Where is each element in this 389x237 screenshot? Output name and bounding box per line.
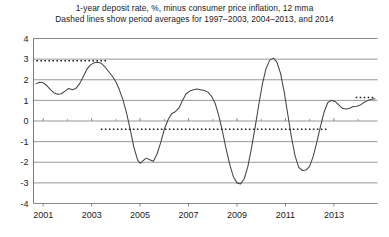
x-tick-label-2001: 2001: [33, 210, 53, 220]
x-tick-label-2007: 2007: [179, 210, 199, 220]
y-tick-label--1: -1: [20, 137, 28, 147]
y-tick-label--4: -4: [20, 199, 28, 209]
x-tick-label-2013: 2013: [324, 210, 344, 220]
y-tick-label-0: 0: [23, 116, 28, 126]
chart-plot: 43210-1-2-3-4200120032005200720092011201…: [0, 0, 389, 237]
x-tick-label-2005: 2005: [130, 210, 150, 220]
y-tick-label-3: 3: [23, 54, 28, 64]
x-tick-label-2011: 2011: [276, 210, 295, 220]
x-tick-label-2009: 2009: [227, 210, 247, 220]
y-tick-label-4: 4: [23, 34, 28, 44]
chart-container: 1-year deposit rate, %, minus consumer p…: [0, 0, 389, 237]
y-tick-label-1: 1: [23, 96, 28, 106]
y-tick-label-2: 2: [23, 75, 28, 85]
y-tick-label--3: -3: [20, 178, 28, 188]
x-tick-label-2003: 2003: [82, 210, 102, 220]
y-tick-label--2: -2: [20, 157, 28, 167]
